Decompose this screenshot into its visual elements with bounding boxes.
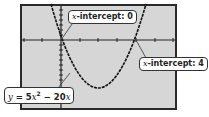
pointer-intercept-0 bbox=[61, 24, 72, 40]
callout-text: -intercept: 0 bbox=[77, 12, 133, 21]
callout-equation: y = 5x2 − 20x bbox=[4, 87, 74, 104]
eq-x2: x bbox=[66, 92, 71, 102]
y-ticks bbox=[59, 10, 63, 80]
eq-part: − 20 bbox=[41, 92, 66, 102]
callout-text: -intercept: 4 bbox=[148, 59, 204, 68]
callout-x-intercept-0: x-intercept: 0 bbox=[68, 10, 137, 24]
callout-x-intercept-4: x-intercept: 4 bbox=[139, 57, 208, 71]
pointer-intercept-4 bbox=[136, 40, 146, 58]
eq-part: = 5 bbox=[13, 92, 32, 102]
